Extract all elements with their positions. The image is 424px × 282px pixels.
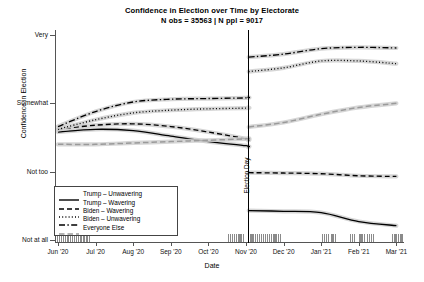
x-tick	[396, 242, 397, 246]
y-tick-label: Very	[0, 31, 48, 38]
rug-mark	[280, 234, 281, 242]
legend-key-line	[58, 190, 80, 198]
y-tick-label: Not at all	[0, 236, 48, 243]
legend-item: Biden – Wavering	[58, 207, 174, 215]
legend-label: Everyone Else	[83, 224, 124, 232]
rug-mark	[243, 234, 244, 242]
legend-item: Everyone Else	[58, 224, 174, 232]
legend-key-line	[58, 207, 80, 215]
confidence-band	[249, 103, 397, 127]
legend-key-line	[58, 215, 80, 223]
x-tick	[133, 242, 134, 246]
x-tick	[321, 242, 322, 246]
x-tick-label: Mar '21	[373, 248, 419, 255]
rug-mark	[401, 234, 402, 242]
x-tick	[208, 242, 209, 246]
legend-key-line	[58, 224, 80, 232]
rug-mark	[335, 234, 336, 242]
legend-item: Trump – Unwavering	[58, 190, 174, 198]
election-day-label: Election Day	[243, 146, 250, 206]
chart-figure: Confidence in Election over Time by Elec…	[0, 0, 424, 282]
x-tick	[284, 242, 285, 246]
rug-mark	[364, 234, 365, 242]
y-tick	[50, 103, 55, 104]
legend-label: Trump – Wavering	[83, 199, 135, 207]
legend-item: Biden – Unwavering	[58, 215, 174, 223]
chart-legend: Trump – UnwaveringTrump – WaveringBiden …	[54, 186, 178, 236]
chart-title: Confidence in Election over Time by Elec…	[0, 6, 424, 15]
x-tick	[359, 242, 360, 246]
legend-item: Trump – Wavering	[58, 198, 174, 206]
y-tick-label: Somewhat	[0, 99, 48, 106]
election-day-line	[248, 30, 250, 243]
x-tick	[171, 242, 172, 246]
legend-label: Biden – Unwavering	[83, 215, 140, 223]
rug-mark	[265, 234, 266, 242]
rug-mark	[373, 234, 374, 242]
rug-mark	[328, 234, 329, 242]
legend-label: Trump – Unwavering	[83, 190, 142, 198]
rug-mark	[354, 234, 355, 242]
x-tick	[96, 242, 97, 246]
x-tick	[246, 242, 247, 246]
rug-mark	[395, 234, 396, 242]
x-axis-title: Date	[0, 262, 424, 269]
legend-label: Biden – Wavering	[83, 207, 133, 215]
y-tick	[50, 172, 55, 173]
confidence-band	[249, 60, 397, 71]
x-tick	[58, 242, 59, 246]
chart-subtitle: N obs = 35563 | N ppl = 9017	[0, 16, 424, 25]
x-axis-line	[55, 242, 404, 243]
y-tick-label: Not too	[0, 168, 48, 175]
y-tick	[50, 35, 55, 36]
legend-key-line	[58, 199, 80, 207]
